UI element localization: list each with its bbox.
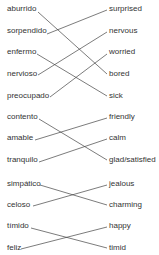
english-word: surprised [109, 4, 142, 14]
connection-line [39, 119, 107, 160]
spanish-word: aburrido [7, 4, 36, 14]
english-word: charming [109, 200, 142, 210]
english-word: happy [109, 221, 131, 231]
english-word: glad/satisfied [109, 155, 156, 165]
english-word: bored [109, 69, 129, 79]
english-word: nervous [109, 26, 137, 36]
connection-line [38, 12, 107, 74]
spanish-word: simpático [7, 179, 41, 189]
spanish-word: tranquilo [7, 155, 38, 165]
spanish-word: amable [7, 133, 33, 143]
connection-line [31, 228, 107, 248]
connection-lines [0, 0, 159, 255]
connection-line [39, 139, 107, 162]
connection-line [37, 54, 107, 96]
spanish-word: feliz [7, 243, 21, 253]
spanish-word: celoso [7, 200, 30, 210]
connection-line [33, 185, 107, 206]
connection-line [21, 227, 107, 249]
spanish-word: sorpendido [7, 26, 47, 36]
connection-line [38, 32, 107, 75]
english-word: jealous [109, 179, 134, 189]
spanish-word: tímido [7, 221, 29, 231]
spanish-word: contento [7, 112, 38, 122]
english-word: calm [109, 133, 126, 143]
spanish-word: preocupado [7, 91, 49, 101]
connection-line [35, 118, 107, 140]
english-word: worried [109, 47, 135, 57]
connection-line [47, 10, 107, 34]
english-word: sick [109, 91, 123, 101]
english-word: friendly [109, 112, 135, 122]
spanish-word: enfermo [7, 47, 36, 57]
english-word: timid [109, 243, 126, 253]
spanish-word: nervioso [7, 69, 37, 79]
